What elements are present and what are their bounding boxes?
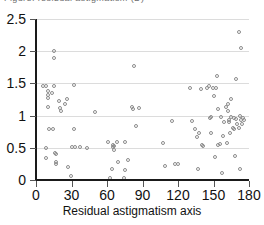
data-point xyxy=(52,56,56,60)
data-point xyxy=(131,107,135,111)
data-point xyxy=(78,145,82,149)
data-point xyxy=(132,64,136,68)
data-point xyxy=(170,119,174,123)
y-tick-label: 2 xyxy=(0,44,26,58)
data-point xyxy=(50,91,54,95)
y-tick-mark xyxy=(30,19,36,20)
data-point xyxy=(123,140,127,144)
y-axis-line xyxy=(35,19,37,181)
gridline xyxy=(36,148,249,149)
clipped-title: Figure: residual astigmatism (D) xyxy=(4,0,144,3)
scatter-chart: Figure: residual astigmatism (D) 00.511.… xyxy=(0,0,264,225)
x-tick-label: 60 xyxy=(87,188,127,202)
data-point xyxy=(221,134,225,138)
data-point xyxy=(232,127,236,131)
data-point xyxy=(193,127,197,131)
data-point xyxy=(196,167,200,171)
x-tick-label: 150 xyxy=(194,188,234,202)
x-tick-label: 0 xyxy=(16,188,56,202)
data-point xyxy=(59,109,63,113)
data-point xyxy=(214,86,218,90)
y-tick-mark xyxy=(30,83,36,84)
plot-area xyxy=(36,19,249,180)
data-point xyxy=(240,122,244,126)
data-point xyxy=(54,152,58,156)
data-point xyxy=(220,171,224,175)
data-point xyxy=(115,140,119,144)
data-point xyxy=(218,142,222,146)
data-point xyxy=(226,109,230,113)
x-tick-label: 90 xyxy=(123,188,163,202)
data-point xyxy=(161,141,165,145)
data-point xyxy=(69,174,73,178)
data-point xyxy=(234,117,238,121)
data-point xyxy=(46,96,50,100)
data-point xyxy=(197,131,201,135)
data-point xyxy=(63,102,67,106)
data-point xyxy=(209,131,213,135)
data-point xyxy=(227,120,231,124)
data-point xyxy=(238,167,242,171)
y-tick-mark xyxy=(30,116,36,117)
data-point xyxy=(201,144,205,148)
gridline xyxy=(36,51,249,52)
data-point xyxy=(52,49,56,53)
data-point xyxy=(85,146,89,150)
data-point xyxy=(72,83,76,87)
data-point xyxy=(44,146,48,150)
data-point xyxy=(219,115,223,119)
data-point xyxy=(222,120,226,124)
data-point xyxy=(199,87,203,91)
y-tick-mark xyxy=(30,51,36,52)
data-point xyxy=(112,148,116,152)
data-point xyxy=(237,30,241,34)
data-point xyxy=(46,105,50,109)
data-point xyxy=(123,168,127,172)
data-point xyxy=(44,156,48,160)
data-point xyxy=(226,102,230,106)
data-point xyxy=(216,107,220,111)
data-point xyxy=(66,165,70,169)
data-point xyxy=(110,167,114,171)
data-point xyxy=(233,154,237,158)
data-point xyxy=(72,127,76,131)
x-tick-label: 30 xyxy=(52,188,92,202)
data-point xyxy=(54,162,58,166)
gridline xyxy=(36,116,249,117)
data-point xyxy=(234,77,238,81)
data-point xyxy=(137,106,141,110)
data-point xyxy=(44,84,48,88)
data-point xyxy=(116,160,120,164)
data-point xyxy=(57,99,61,103)
data-point xyxy=(188,86,192,90)
data-point xyxy=(235,122,239,126)
y-tick-label: 0.5 xyxy=(0,141,26,155)
data-point xyxy=(163,164,167,168)
data-point xyxy=(134,124,138,128)
data-point xyxy=(237,126,241,130)
data-point xyxy=(242,118,246,122)
y-tick-label: 1 xyxy=(0,109,26,123)
data-point xyxy=(106,140,110,144)
data-point xyxy=(195,135,199,139)
data-point xyxy=(93,110,97,114)
y-tick-mark xyxy=(30,148,36,149)
data-point xyxy=(176,162,180,166)
data-point xyxy=(213,155,217,159)
data-point xyxy=(225,141,229,145)
y-tick-label: 2.5 xyxy=(0,12,26,26)
data-point xyxy=(126,158,130,162)
x-axis-label: Residual astigmatism axis xyxy=(0,204,264,218)
x-tick-label: 120 xyxy=(158,188,198,202)
data-point xyxy=(52,84,56,88)
y-tick-label: 0 xyxy=(0,173,26,187)
data-point xyxy=(51,127,55,131)
data-point xyxy=(215,74,219,78)
gridline xyxy=(36,83,249,84)
data-point xyxy=(228,131,232,135)
y-tick-label: 1.5 xyxy=(0,76,26,90)
data-point xyxy=(212,94,216,98)
data-point xyxy=(65,97,69,101)
data-point xyxy=(112,144,116,148)
x-tick-label: 180 xyxy=(229,188,264,202)
